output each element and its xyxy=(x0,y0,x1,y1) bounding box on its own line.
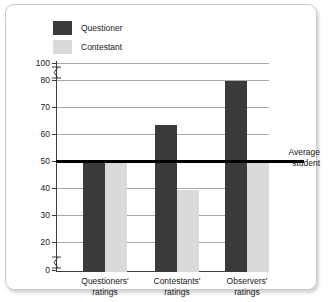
y-tick-20 xyxy=(52,242,56,243)
y-tick-100 xyxy=(52,63,56,64)
x-category-label-contestants-ratings: Contestants' ratings xyxy=(154,276,201,298)
legend-label-contestant: Contestant xyxy=(81,42,122,52)
bar-contestant-questioners-ratings xyxy=(105,163,127,272)
x-category-label-observers-ratings: Observers' ratings xyxy=(227,276,268,298)
axis-break-upper-icon xyxy=(52,65,61,78)
average-student-annotation: Average student xyxy=(278,147,320,169)
y-tick-label-30: 30 xyxy=(41,210,50,220)
plot-area: 100 80 70 60 50 40 30 20 0 Que xyxy=(56,61,269,272)
y-tick-40 xyxy=(52,188,56,189)
y-tick-0 xyxy=(52,270,56,271)
y-tick-label-0: 0 xyxy=(45,265,50,275)
y-axis-line xyxy=(56,61,57,272)
x-category-label-line2: ratings xyxy=(227,287,268,298)
average-student-reference-line xyxy=(56,160,304,163)
average-student-line1: Average xyxy=(278,147,320,158)
legend-label-questioner: Questioner xyxy=(81,23,123,33)
chart-legend: Questioner Contestant xyxy=(53,18,123,56)
x-category-label-line1: Questioners' xyxy=(81,276,128,287)
x-category-label-line2: ratings xyxy=(154,287,201,298)
bar-questioner-questioners-ratings xyxy=(83,162,105,272)
bar-contestant-contestants-ratings xyxy=(177,190,199,272)
x-category-label-questioners-ratings: Questioners' ratings xyxy=(81,276,128,298)
legend-swatch-contestant xyxy=(53,40,72,54)
y-tick-label-20: 20 xyxy=(41,237,50,247)
bar-questioner-observers-ratings xyxy=(225,81,247,272)
bar-contestant-observers-ratings xyxy=(247,163,269,272)
axis-break-lower-icon xyxy=(52,255,61,268)
average-student-line2: student xyxy=(278,158,320,169)
gridline-100 xyxy=(56,63,269,64)
legend-swatch-questioner xyxy=(53,21,72,35)
y-tick-60 xyxy=(52,134,56,135)
y-tick-30 xyxy=(52,215,56,216)
y-tick-label-50: 50 xyxy=(41,156,50,166)
x-category-label-line1: Observers' xyxy=(227,276,268,287)
y-tick-label-60: 60 xyxy=(41,129,50,139)
y-tick-label-70: 70 xyxy=(41,102,50,112)
y-tick-label-80: 80 xyxy=(41,75,50,85)
y-tick-70 xyxy=(52,107,56,108)
y-tick-label-100: 100 xyxy=(36,58,50,68)
bar-questioner-contestants-ratings xyxy=(155,125,177,272)
chart-figure-frame: Questioner Contestant Mean rating of gen… xyxy=(5,4,317,290)
y-tick-label-40: 40 xyxy=(41,183,50,193)
x-category-label-line2: ratings xyxy=(81,287,128,298)
x-category-label-line1: Contestants' xyxy=(154,276,201,287)
legend-item-contestant: Contestant xyxy=(53,37,123,56)
legend-item-questioner: Questioner xyxy=(53,18,123,37)
y-tick-80 xyxy=(52,80,56,81)
